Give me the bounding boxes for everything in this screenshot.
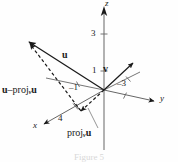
axis-label-z: z [105,0,109,8]
tick-label-z-3: 3 [91,29,96,38]
tick-label-x-4: 4 [58,114,63,123]
proj-label-leader [88,108,98,128]
u-minus-proj-vector: u [31,84,37,95]
axis-x [44,90,104,124]
axis-y [104,90,154,101]
tick-label-z-1: 1 [92,66,97,75]
axis-z [101,6,108,150]
axis-label-x: x [33,121,37,130]
axis-label-y: y [160,94,164,103]
label-u-minus-proj-v-u: u–projvu [2,85,37,95]
tick-label-y-neg3: –3 [117,79,126,88]
vector-label-v: v [103,64,108,74]
u-minus-proj-prefix: proj [13,84,29,95]
label-proj-v-u: projvu [67,128,91,138]
figure-container: z y x 3 1 –1 –3 4 u v u–projvu projvu Fi… [0,0,178,162]
proj-vector: u [86,127,92,138]
proj-v-u-arrow [81,90,104,111]
proj-prefix: proj [67,127,83,138]
vector-label-u: u [62,50,68,60]
tick-label-x-neg1: –1 [69,83,78,92]
figure-caption: Figure 5 [0,152,178,162]
u-minus-proj-arrow [30,44,81,111]
